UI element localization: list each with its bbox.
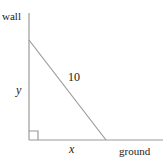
horizontal-leg-label: x [69, 143, 74, 155]
ground-label: ground [119, 146, 150, 157]
hypotenuse-ladder-line [29, 40, 106, 140]
diagram-canvas [0, 0, 167, 164]
hypotenuse-length-label: 10 [68, 71, 80, 83]
vertical-leg-label: y [16, 84, 21, 96]
right-angle-marker-icon [29, 131, 38, 140]
geometry-diagram: wall ground 10 y x [0, 0, 167, 164]
wall-label: wall [2, 11, 21, 22]
